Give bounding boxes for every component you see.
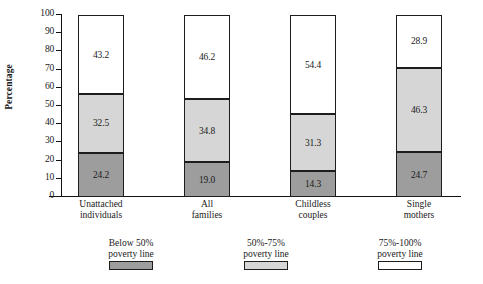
legend-item[interactable]: Below 50%poverty line — [66, 238, 196, 270]
y-axis-tick-label: 60 — [28, 82, 54, 92]
legend-swatch-50-75-poverty — [244, 261, 288, 270]
bar-group[interactable]: 24.232.543.2 — [78, 14, 124, 197]
category-label-line-1: Single — [359, 199, 479, 210]
bar-segment-value-label: 46.2 — [199, 52, 215, 62]
bar-segment-value-label: 31.3 — [305, 138, 321, 148]
category-label-line-2: mothers — [359, 210, 479, 221]
category-label-line-2: individuals — [41, 210, 161, 221]
bar-segment-75-100-poverty[interactable]: 46.2 — [184, 15, 230, 99]
y-axis-tick-label: 20 — [28, 155, 54, 165]
x-axis-category-label: Singlemothers — [359, 199, 479, 220]
bar-segment-50-75-poverty[interactable]: 34.8 — [184, 99, 230, 162]
bar-segment-50-75-poverty[interactable]: 32.5 — [78, 94, 124, 153]
y-axis-tick-label: 40 — [28, 118, 54, 128]
x-axis-category-label: Unattachedindividuals — [41, 199, 161, 220]
bar-segment-value-label: 32.5 — [93, 118, 109, 128]
category-label-line-2: couples — [253, 210, 373, 221]
legend-label-line-1: Below 50% — [66, 238, 196, 249]
legend-item[interactable]: 50%-75%poverty line — [201, 238, 331, 270]
category-label-line-1: All — [147, 199, 267, 210]
legend-swatch-75-100-poverty — [378, 261, 422, 270]
bar-segment-below-50-poverty[interactable]: 24.7 — [396, 152, 442, 197]
legend-label-line-1: 50%-75% — [201, 238, 331, 249]
bar-group[interactable]: 14.331.354.4 — [290, 14, 336, 197]
bar-segment-50-75-poverty[interactable]: 46.3 — [396, 68, 442, 152]
bar-segment-value-label: 43.2 — [93, 50, 109, 60]
y-axis-title: Percentage — [4, 37, 14, 137]
y-axis-tick-label: 80 — [28, 45, 54, 55]
bar-group[interactable]: 24.746.328.9 — [396, 14, 442, 197]
stacked-bar-chart: Percentage 1009080706050403020100 24.232… — [0, 0, 483, 284]
legend-item[interactable]: 75%-100%poverty line — [335, 238, 465, 270]
bar-segment-below-50-poverty[interactable]: 19.0 — [184, 162, 230, 197]
plot-area: 24.232.543.219.034.846.214.331.354.424.7… — [61, 14, 459, 197]
y-axis-tick-labels: 1009080706050403020100 — [22, 0, 54, 284]
category-label-line-1: Unattached — [41, 199, 161, 210]
category-label-line-1: Childless — [253, 199, 373, 210]
y-axis-tick-label: 90 — [28, 27, 54, 37]
legend-label-line-1: 75%-100% — [335, 238, 465, 249]
y-axis-tick-label: 10 — [28, 173, 54, 183]
y-axis-tick-label: 30 — [28, 136, 54, 146]
bar-segment-value-label: 19.0 — [199, 175, 215, 185]
bar-segment-value-label: 24.2 — [93, 170, 109, 180]
bar-segment-75-100-poverty[interactable]: 28.9 — [396, 15, 442, 68]
y-axis-tick-label: 70 — [28, 64, 54, 74]
legend-label-line-2: poverty line — [66, 249, 196, 260]
bar-group[interactable]: 19.034.846.2 — [184, 14, 230, 197]
bar-segment-below-50-poverty[interactable]: 14.3 — [290, 171, 336, 197]
y-axis-tick-label: 50 — [28, 100, 54, 110]
bar-segment-value-label: 54.4 — [305, 60, 321, 70]
legend-swatch-below-50-poverty — [109, 261, 153, 270]
bar-segment-value-label: 24.7 — [411, 170, 427, 180]
y-axis-tick-label: 100 — [28, 9, 54, 19]
cut-off-title-artifact — [60, 0, 440, 8]
bar-segment-50-75-poverty[interactable]: 31.3 — [290, 114, 336, 171]
category-label-line-2: families — [147, 210, 267, 221]
bar-segment-value-label: 34.8 — [199, 126, 215, 136]
bar-segment-value-label: 14.3 — [305, 179, 321, 189]
x-axis-category-label: Childlesscouples — [253, 199, 373, 220]
legend-label-line-2: poverty line — [335, 249, 465, 260]
legend-label-line-2: poverty line — [201, 249, 331, 260]
bar-segment-value-label: 46.3 — [411, 105, 427, 115]
bar-segment-75-100-poverty[interactable]: 43.2 — [78, 15, 124, 94]
bar-segment-value-label: 28.9 — [411, 36, 427, 46]
bar-segment-75-100-poverty[interactable]: 54.4 — [290, 15, 336, 114]
bar-segment-below-50-poverty[interactable]: 24.2 — [78, 153, 124, 197]
x-axis-category-label: Allfamilies — [147, 199, 267, 220]
